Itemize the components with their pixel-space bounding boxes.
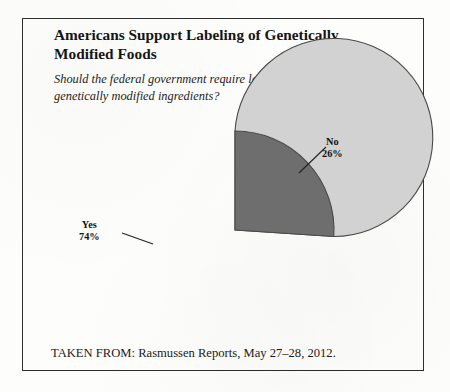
- pie-label-yes: Yes 74%: [79, 219, 100, 244]
- figure-subtitle: Should the federal government require la…: [54, 71, 396, 104]
- figure-source-note: TAKEN FROM: Rasmussen Reports, May 27–28…: [51, 346, 336, 361]
- figure-page: Americans Support Labeling of Geneticall…: [0, 0, 450, 392]
- pie-label-no-name: No: [322, 136, 343, 148]
- pie-label-no: No 26%: [322, 136, 343, 161]
- pie-label-yes-value: 74%: [79, 231, 100, 243]
- pie-label-yes-name: Yes: [79, 219, 100, 231]
- figure-title: Americans Support Labeling of Geneticall…: [54, 25, 384, 63]
- pie-label-no-value: 26%: [322, 148, 343, 160]
